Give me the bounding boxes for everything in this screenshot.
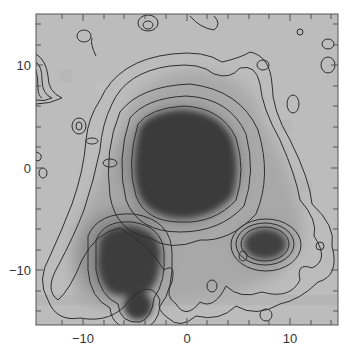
y-axis-labels: 10 0 −10 (9, 58, 31, 278)
x-tick-label: 0 (183, 331, 190, 346)
x-tick-label: 10 (283, 331, 297, 346)
y-tick-label: 10 (17, 58, 31, 73)
x-axis-labels: −10 0 10 (72, 331, 297, 346)
plot-area (36, 14, 338, 330)
contour-heatmap-chart: −10 0 10 10 0 −10 (0, 0, 351, 357)
y-tick-label: −10 (9, 263, 31, 278)
y-tick-label: 0 (24, 161, 31, 176)
x-tick-label: −10 (72, 331, 94, 346)
